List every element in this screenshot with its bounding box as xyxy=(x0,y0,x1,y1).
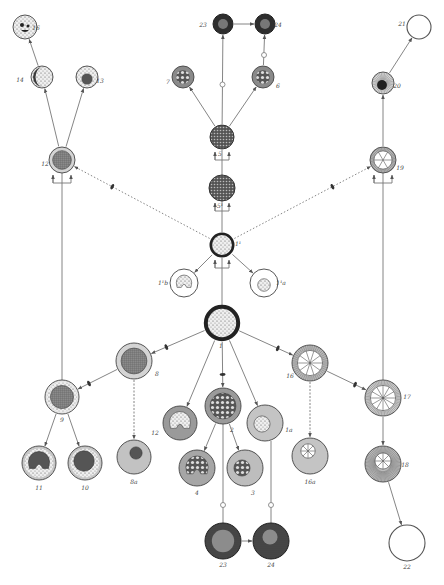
node-label: 20 xyxy=(392,82,401,89)
edge-5-to-7 xyxy=(190,87,215,126)
node-label: 17 xyxy=(403,393,411,400)
cell-node-1c xyxy=(250,269,278,297)
cell-node-1 xyxy=(206,307,238,339)
edge-14-to-16 xyxy=(29,39,38,65)
edge-1a-to-1c xyxy=(232,254,252,273)
edge-1a-to-19 xyxy=(234,167,370,239)
cell-node-1a xyxy=(211,234,233,256)
node-label: 5 xyxy=(218,150,222,157)
cell-node-5a xyxy=(209,175,235,201)
node-label: 1¹ xyxy=(235,240,241,247)
circle-marker xyxy=(220,82,225,87)
cell-node-16n xyxy=(292,345,328,381)
node-label: 7 xyxy=(166,78,170,85)
bar-marker xyxy=(110,183,115,190)
circle-marker xyxy=(262,53,267,58)
bar-marker xyxy=(164,344,169,351)
cell-node-21 xyxy=(407,15,431,39)
node-label: 23 xyxy=(198,21,207,28)
node-label: 4 xyxy=(194,489,199,496)
edge-2-to-4 xyxy=(204,424,215,451)
node-label: 16 xyxy=(286,372,294,379)
cell-node-9 xyxy=(45,380,79,414)
node-label: 12 xyxy=(41,160,49,167)
cell-node-18 xyxy=(365,446,401,482)
edge-5-to-6 xyxy=(229,87,256,126)
node-label: 6 xyxy=(276,82,280,89)
cell-node-13 xyxy=(76,66,98,88)
cell-node-24t xyxy=(255,14,275,34)
node-label: 24 xyxy=(266,561,275,568)
cell-node-8a xyxy=(117,440,151,474)
bar-marker xyxy=(275,345,280,352)
cell-node-10 xyxy=(68,446,102,480)
node-label: 10 xyxy=(81,484,89,491)
cell-node-12 xyxy=(49,147,75,173)
node-label: 12 xyxy=(151,429,159,436)
cell-node-1b xyxy=(170,269,198,297)
cell-node-7 xyxy=(172,66,194,88)
cell-node-1a2 xyxy=(247,405,283,441)
cell-node-24 xyxy=(253,523,289,559)
cell-node-12b xyxy=(163,406,197,440)
node-label: 9 xyxy=(60,416,64,423)
node-label: 11 xyxy=(35,484,43,491)
edge-1a-to-1b xyxy=(195,255,212,272)
bar-marker xyxy=(330,183,335,190)
node-label: 1 xyxy=(219,342,223,349)
edge-1-to-16n xyxy=(239,331,292,355)
node-label: 5¹ xyxy=(217,202,223,209)
cell-node-23t xyxy=(213,14,233,34)
edge-1a-to-12 xyxy=(74,167,209,239)
circle-marker xyxy=(221,503,226,508)
cell-node-20 xyxy=(372,72,394,94)
edge-1-to-8 xyxy=(151,331,204,354)
node-label: 13 xyxy=(96,77,104,84)
cell-node-5 xyxy=(210,125,234,149)
cell-node-16a xyxy=(292,438,328,474)
edge-6-to-24t xyxy=(263,35,264,65)
node-label: 1¹a xyxy=(276,279,286,286)
edge-16n-to-17 xyxy=(327,371,366,390)
node-label: 8 xyxy=(155,370,159,377)
edge-20-to-21 xyxy=(389,38,411,73)
cell-node-6 xyxy=(252,66,274,88)
node-label: 1a xyxy=(285,426,293,433)
node-label: 24 xyxy=(273,21,282,28)
circle-marker xyxy=(269,503,274,508)
cell-node-22 xyxy=(389,525,425,561)
node-label: 19 xyxy=(396,164,404,171)
node-label: 1¹b xyxy=(158,279,168,286)
cell-node-19 xyxy=(370,147,396,173)
bar-marker xyxy=(86,380,91,387)
edge-12-to-13 xyxy=(66,88,84,146)
cell-lineage-diagram: 1614131223247655¹1¹1¹b1¹a11920218911108a… xyxy=(0,0,444,585)
edge-9-to-11 xyxy=(45,414,56,446)
edge-9-to-10 xyxy=(68,414,79,446)
edge-12-to-14 xyxy=(45,89,59,147)
node-label: 8a xyxy=(130,478,138,485)
cell-node-8 xyxy=(116,343,152,379)
node-label: 21 xyxy=(397,20,406,27)
cell-node-23 xyxy=(205,523,241,559)
node-label: 23 xyxy=(218,561,227,568)
cell-node-11 xyxy=(22,446,56,480)
bar-marker xyxy=(220,373,226,376)
bar-marker xyxy=(352,381,357,388)
node-label: 2 xyxy=(229,426,234,433)
cell-node-14 xyxy=(31,66,53,88)
edge-18-to-22 xyxy=(389,482,402,525)
cell-node-2 xyxy=(205,388,241,424)
cell-node-3 xyxy=(227,450,263,486)
node-label: 18 xyxy=(401,461,409,468)
node-label: 16 xyxy=(32,24,40,31)
cell-node-17 xyxy=(365,380,401,416)
node-label: 14 xyxy=(16,76,24,83)
node-label: 16a xyxy=(304,478,316,485)
node-label: 3 xyxy=(251,489,255,496)
edge-5-to-23t xyxy=(222,35,223,124)
node-label: 22 xyxy=(402,563,411,570)
cell-node-4 xyxy=(179,450,215,486)
edge-8-to-9 xyxy=(78,369,117,388)
